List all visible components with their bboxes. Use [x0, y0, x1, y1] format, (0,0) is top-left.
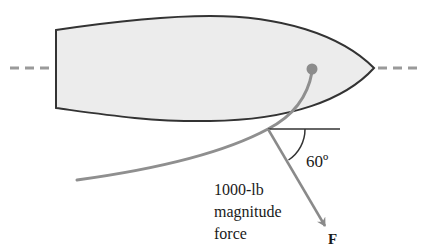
force-label-line-3: force — [214, 225, 247, 242]
attachment-point — [307, 64, 318, 75]
angle-label: 60º — [306, 152, 328, 171]
boat-force-diagram: 60º 1000-lb magnitude force F — [0, 0, 421, 250]
angle-arc — [289, 129, 306, 160]
boat-hull — [56, 16, 374, 121]
force-label-line-1: 1000-lb — [214, 181, 264, 198]
force-label-line-2: magnitude — [214, 203, 282, 221]
vector-label: F — [328, 231, 337, 247]
